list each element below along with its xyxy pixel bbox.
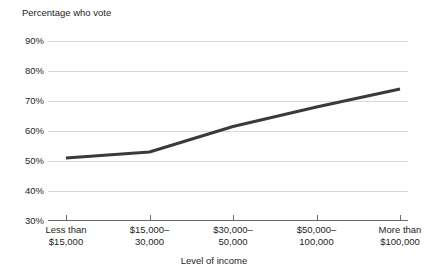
y-tick-label: 60% bbox=[4, 126, 44, 136]
x-category-label: $30,000–50,000 bbox=[190, 224, 276, 248]
data-line-series bbox=[48, 41, 408, 221]
x-category-label: Less than$15,000 bbox=[23, 224, 109, 248]
x-category-label: $50,000–100,000 bbox=[274, 224, 360, 248]
chart-container: Percentage who vote 90%80%70%60%50%40%30… bbox=[0, 0, 428, 277]
x-category-label-line: $15,000– bbox=[107, 224, 193, 236]
x-category-label: $15,000–30,000 bbox=[107, 224, 193, 248]
x-category-label: More than$100,000 bbox=[357, 224, 428, 248]
x-category-label-line: Less than bbox=[23, 224, 109, 236]
y-tick-label: 70% bbox=[4, 96, 44, 106]
y-tick-label: 80% bbox=[4, 66, 44, 76]
y-tick-label: 50% bbox=[4, 156, 44, 166]
x-axis-category-labels: Less than$15,000$15,000–30,000$30,000–50… bbox=[48, 224, 408, 252]
y-tick-label: 40% bbox=[4, 186, 44, 196]
x-category-label-line: 30,000 bbox=[107, 236, 193, 248]
x-category-label-line: $15,000 bbox=[23, 236, 109, 248]
x-axis-caption: Level of income bbox=[0, 255, 428, 267]
y-axis-caption: Percentage who vote bbox=[22, 7, 111, 19]
x-category-label-line: 100,000 bbox=[274, 236, 360, 248]
plot-area bbox=[48, 41, 408, 221]
x-category-label-line: $100,000 bbox=[357, 236, 428, 248]
x-category-label-line: More than bbox=[357, 224, 428, 236]
x-category-label-line: $30,000– bbox=[190, 224, 276, 236]
x-category-label-line: $50,000– bbox=[274, 224, 360, 236]
series-polyline bbox=[66, 89, 400, 158]
y-axis-tick-labels: 90%80%70%60%50%40%30% bbox=[0, 41, 44, 221]
x-category-label-line: 50,000 bbox=[190, 236, 276, 248]
y-tick-label: 90% bbox=[4, 36, 44, 46]
